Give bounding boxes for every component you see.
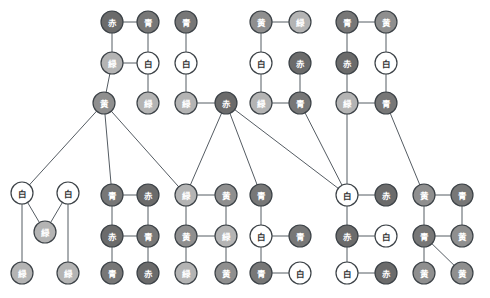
node-circle[interactable] <box>175 225 197 247</box>
node-circle[interactable] <box>336 52 358 74</box>
node-circle[interactable] <box>336 92 358 114</box>
graph-node[interactable]: 黄 <box>451 262 473 284</box>
node-circle[interactable] <box>137 92 159 114</box>
graph-node[interactable]: 赤 <box>137 262 159 284</box>
graph-node[interactable]: 緑 <box>215 225 237 247</box>
node-circle[interactable] <box>137 184 159 206</box>
node-circle[interactable] <box>289 11 311 33</box>
graph-node[interactable]: 黄 <box>451 225 473 247</box>
node-circle[interactable] <box>375 11 397 33</box>
node-circle[interactable] <box>101 52 123 74</box>
graph-node[interactable]: 白 <box>137 52 159 74</box>
node-circle[interactable] <box>375 262 397 284</box>
node-circle[interactable] <box>451 184 473 206</box>
graph-node[interactable]: 緑 <box>137 92 159 114</box>
node-circle[interactable] <box>250 184 272 206</box>
node-circle[interactable] <box>336 262 358 284</box>
node-circle[interactable] <box>215 184 237 206</box>
node-circle[interactable] <box>175 52 197 74</box>
node-circle[interactable] <box>101 225 123 247</box>
graph-node[interactable]: 黄 <box>413 184 435 206</box>
graph-node[interactable]: 白 <box>375 52 397 74</box>
graph-node[interactable]: 黄 <box>215 184 237 206</box>
node-circle[interactable] <box>137 52 159 74</box>
graph-node[interactable]: 黄 <box>413 262 435 284</box>
node-circle[interactable] <box>137 11 159 33</box>
node-circle[interactable] <box>375 92 397 114</box>
node-circle[interactable] <box>336 184 358 206</box>
graph-node[interactable]: 白 <box>250 225 272 247</box>
graph-node[interactable]: 黄 <box>93 92 115 114</box>
node-circle[interactable] <box>375 225 397 247</box>
node-circle[interactable] <box>250 11 272 33</box>
graph-node[interactable]: 赤 <box>375 262 397 284</box>
graph-node[interactable]: 緑 <box>34 221 56 243</box>
graph-node[interactable]: 青 <box>413 225 435 247</box>
node-circle[interactable] <box>413 262 435 284</box>
graph-node[interactable]: 白 <box>375 225 397 247</box>
node-circle[interactable] <box>289 92 311 114</box>
node-circle[interactable] <box>413 184 435 206</box>
graph-node[interactable]: 青 <box>137 225 159 247</box>
node-circle[interactable] <box>336 225 358 247</box>
node-circle[interactable] <box>413 225 435 247</box>
node-circle[interactable] <box>250 52 272 74</box>
node-circle[interactable] <box>101 184 123 206</box>
node-circle[interactable] <box>11 262 33 284</box>
graph-node[interactable]: 緑 <box>175 184 197 206</box>
node-circle[interactable] <box>93 92 115 114</box>
graph-node[interactable]: 赤 <box>137 184 159 206</box>
node-circle[interactable] <box>250 262 272 284</box>
graph-node[interactable]: 青 <box>101 184 123 206</box>
node-circle[interactable] <box>137 225 159 247</box>
graph-node[interactable]: 赤 <box>101 225 123 247</box>
graph-node[interactable]: 青 <box>137 11 159 33</box>
node-circle[interactable] <box>215 92 237 114</box>
node-circle[interactable] <box>215 225 237 247</box>
node-circle[interactable] <box>175 11 197 33</box>
node-circle[interactable] <box>57 262 79 284</box>
node-circle[interactable] <box>336 11 358 33</box>
node-circle[interactable] <box>375 184 397 206</box>
graph-node[interactable]: 赤 <box>289 52 311 74</box>
graph-node[interactable]: 緑 <box>11 262 33 284</box>
graph-node[interactable]: 白 <box>11 182 33 204</box>
graph-node[interactable]: 白 <box>336 262 358 284</box>
graph-node[interactable]: 緑 <box>289 11 311 33</box>
node-circle[interactable] <box>101 262 123 284</box>
graph-node[interactable]: 黄 <box>175 225 197 247</box>
node-circle[interactable] <box>289 52 311 74</box>
node-circle[interactable] <box>57 182 79 204</box>
node-circle[interactable] <box>451 225 473 247</box>
graph-node[interactable]: 青 <box>451 184 473 206</box>
node-circle[interactable] <box>175 184 197 206</box>
node-circle[interactable] <box>175 262 197 284</box>
node-circle[interactable] <box>137 262 159 284</box>
graph-node[interactable]: 青 <box>336 11 358 33</box>
graph-node[interactable]: 赤 <box>336 52 358 74</box>
graph-node[interactable]: 緑 <box>250 92 272 114</box>
graph-node[interactable]: 赤 <box>375 184 397 206</box>
graph-node[interactable]: 青 <box>289 92 311 114</box>
graph-node[interactable]: 緑 <box>175 92 197 114</box>
graph-node[interactable]: 白 <box>336 184 358 206</box>
graph-node[interactable]: 白 <box>289 262 311 284</box>
graph-node[interactable]: 黄 <box>250 11 272 33</box>
graph-node[interactable]: 白 <box>57 182 79 204</box>
node-circle[interactable] <box>101 11 123 33</box>
graph-node[interactable]: 赤 <box>101 11 123 33</box>
graph-node[interactable]: 黄 <box>215 262 237 284</box>
node-circle[interactable] <box>11 182 33 204</box>
graph-node[interactable]: 青 <box>289 225 311 247</box>
node-circle[interactable] <box>289 262 311 284</box>
graph-node[interactable]: 黄 <box>375 11 397 33</box>
graph-node[interactable]: 白 <box>175 52 197 74</box>
graph-node[interactable]: 緑 <box>175 262 197 284</box>
graph-node[interactable]: 青 <box>175 11 197 33</box>
node-circle[interactable] <box>289 225 311 247</box>
graph-node[interactable]: 赤 <box>336 225 358 247</box>
graph-node[interactable]: 赤 <box>215 92 237 114</box>
graph-node[interactable]: 青 <box>250 262 272 284</box>
node-circle[interactable] <box>250 92 272 114</box>
graph-node[interactable]: 緑 <box>57 262 79 284</box>
